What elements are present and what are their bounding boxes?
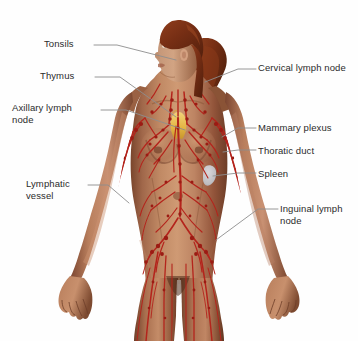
label-tonsils: Tonsils — [44, 38, 74, 50]
human-figure-illustration — [0, 0, 358, 341]
label-inguinal-lymph-node: Inguinal lymph node — [280, 203, 343, 226]
label-thymus: Thymus — [40, 70, 74, 82]
label-spleen: Spleen — [258, 168, 288, 180]
lymphatic-system-figure: Tonsils Thymus Axillary lymph node Lymph… — [0, 0, 358, 341]
label-thoratic-duct: Thoratic duct — [258, 145, 314, 157]
label-mammary-plexus: Mammary plexus — [258, 122, 332, 134]
label-axillary-lymph-node: Axillary lymph node — [12, 102, 72, 125]
label-cervical-lymph-node: Cervical lymph node — [258, 62, 346, 74]
label-lymphatic-vessel: Lymphatic vessel — [26, 178, 70, 201]
